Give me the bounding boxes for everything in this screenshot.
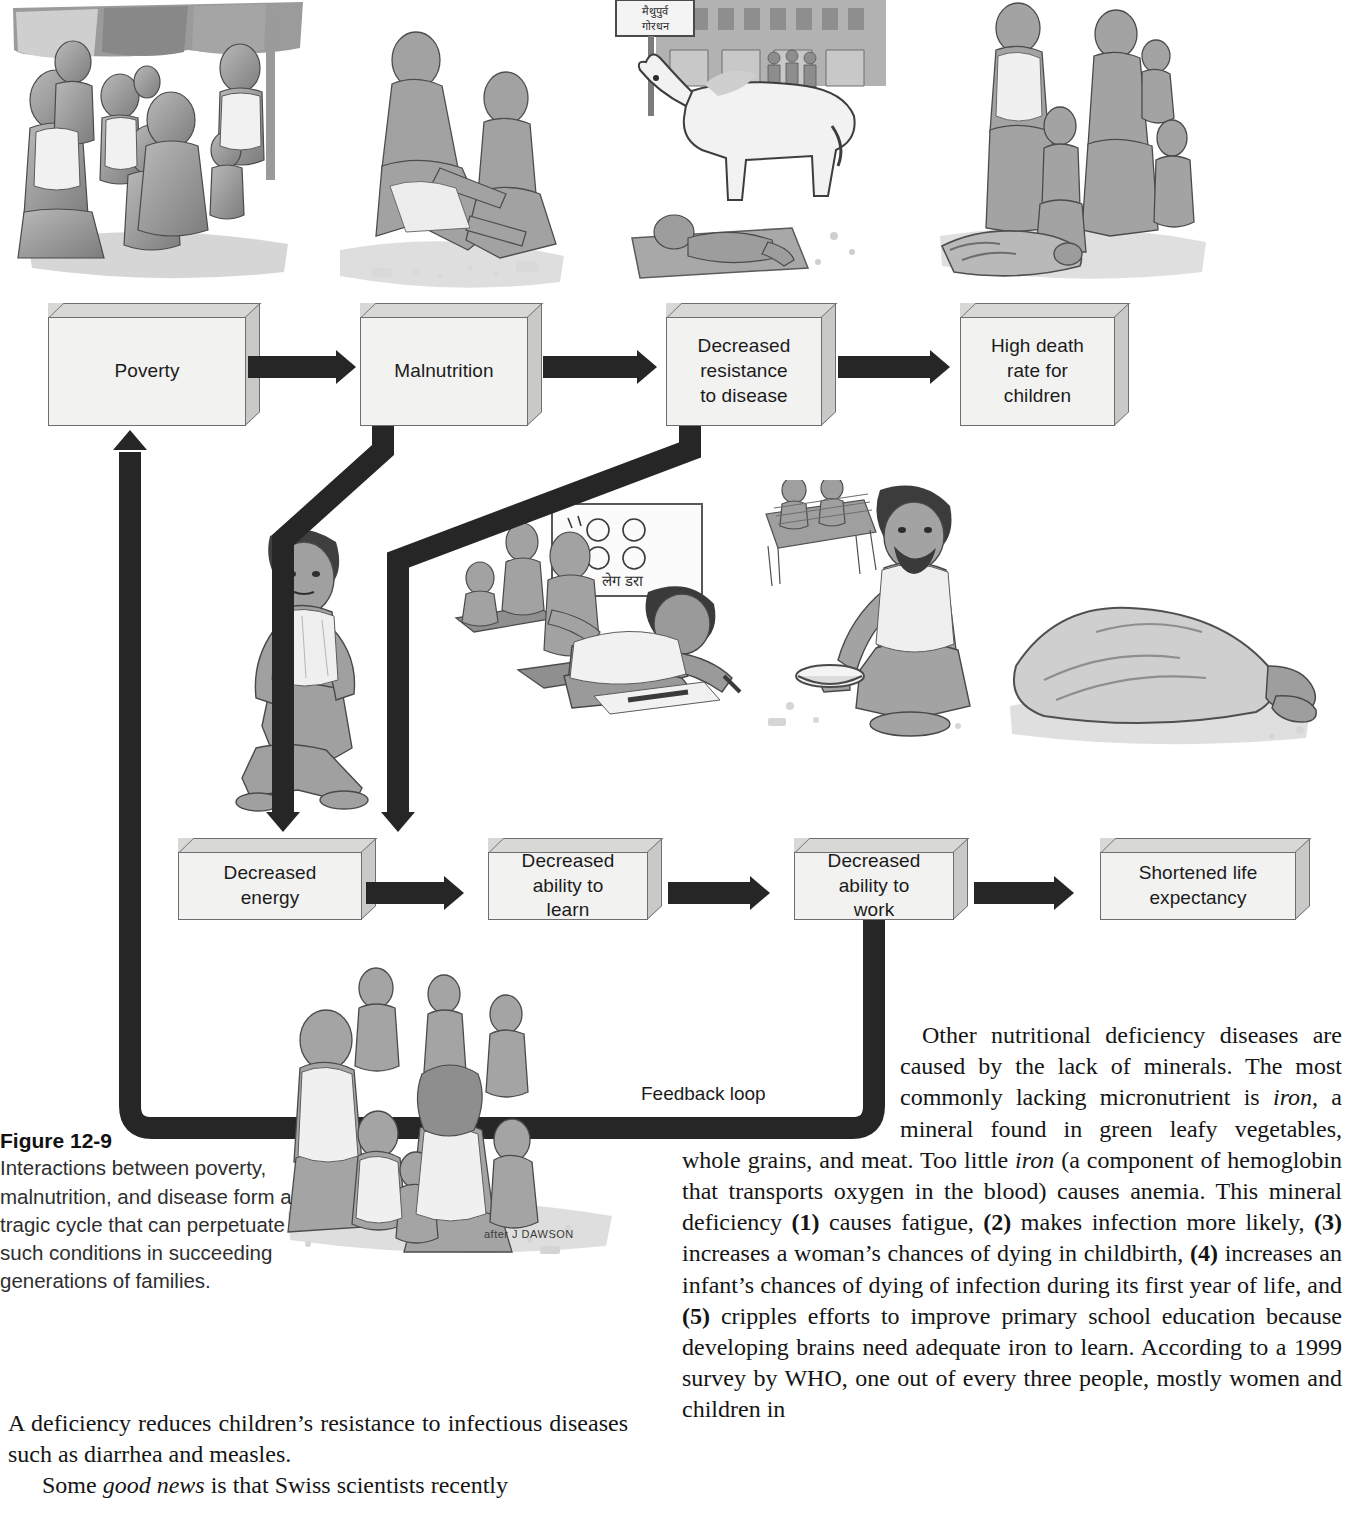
node-side-face [1114,303,1129,426]
arrow-work-to-shortened-life [974,882,1056,904]
node-side-face [821,303,836,426]
figure-caption-text: Interactions between poverty, malnutriti… [0,1156,292,1292]
node-top-face [178,838,362,853]
flow-node-label: Decreasedability tolearn [516,849,621,923]
node-front-face: Malnutrition [360,317,528,426]
node-side-face [1295,838,1310,920]
node-front-face: Poverty [48,317,246,426]
figure-number: Figure 12-9 [0,1129,112,1152]
figure-caption: Figure 12-9 Interactions between poverty… [0,1128,330,1296]
illustration-sitting-boy [212,512,402,822]
arrow-energy-to-learn [366,882,446,904]
arrowhead-right [336,350,356,384]
arrowhead-right [930,350,950,384]
node-top-face [666,303,822,318]
body-text-right-column: Other nutritional deficiency diseases ar… [682,1020,1342,1425]
textbook-page: मैथुपुर्व गोरधन [0,0,1345,1522]
arrowhead-right [637,350,657,384]
flow-node-decreased-ability-work[interactable]: Decreasedability towork [794,838,954,920]
flow-node-label: Poverty [108,359,185,384]
illustration-classroom: लेग डरा [452,500,752,730]
list-marker-2: (2) [983,1209,1011,1235]
illustration-poverty-family [8,0,308,285]
node-top-face [1100,838,1296,853]
left-para2-pre: Some [42,1472,103,1498]
flow-node-label: Malnutrition [388,359,499,384]
flow-node-label: Decreasedability towork [822,849,927,923]
flow-node-label: Decreasedenergy [218,861,323,910]
list-marker-4: (4) [1190,1240,1218,1266]
node-front-face: Decreasedresistanceto disease [666,317,822,426]
svg-text:मैथुपुर्व: मैथुपुर्व [642,5,669,18]
arrow-poverty-to-malnutrition [248,356,338,378]
illustration-cow-street: मैथुपुर्व गोरधन [596,0,896,288]
body-text-left-column: A deficiency reduces children’s resistan… [8,1408,628,1502]
list-marker-3: (3) [1314,1209,1342,1235]
artist-signature: after J DAWSON [484,1228,574,1240]
iron-emphasis-1: iron [1273,1084,1312,1110]
arrowhead-down-energy-right [381,812,415,832]
node-side-face [953,838,968,920]
node-side-face [361,838,376,920]
illustration-family-and-dying-child [920,0,1220,290]
arrowhead-up-to-poverty [113,430,147,450]
flow-node-malnutrition[interactable]: Malnutrition [360,303,528,426]
arrowhead-right [1054,876,1074,910]
flow-node-high-death-rate[interactable]: High deathrate forchildren [960,303,1115,426]
left-para2-post: is that Swiss scientists recently [205,1472,508,1498]
flow-node-decreased-energy[interactable]: Decreasedenergy [178,838,362,920]
illustration-person-lying-blanket [1000,570,1330,750]
node-front-face: Shortened lifeexpectancy [1100,852,1296,920]
list-marker-1: (1) [791,1209,819,1235]
list-text-2: makes infection more likely, [1011,1209,1314,1235]
arrowhead-down-energy-left [266,812,300,832]
arrow-learn-to-work [668,882,752,904]
flow-node-label: Shortened lifeexpectancy [1133,861,1264,910]
left-paragraph-2: Some good news is that Swiss scientists … [8,1470,628,1501]
illustration-man-eating [760,480,990,740]
list-marker-5: (5) [682,1303,710,1329]
node-side-face [527,303,542,426]
node-front-face: High deathrate forchildren [960,317,1115,426]
node-top-face [48,303,246,318]
node-top-face [360,303,528,318]
flow-node-poverty[interactable]: Poverty [48,303,246,426]
arrow-resistance-to-death-rate [838,356,932,378]
list-text-5: cripples efforts to improve primary scho… [682,1303,1342,1423]
node-front-face: Decreasedenergy [178,852,362,920]
arrowhead-right [750,876,770,910]
good-news-emphasis: good news [103,1472,205,1498]
text-runaround-spacer [682,1020,900,1142]
flow-node-decreased-resistance[interactable]: Decreasedresistanceto disease [666,303,822,426]
node-front-face: Decreasedability towork [794,852,954,920]
flow-node-label: High deathrate forchildren [985,334,1090,408]
flow-node-shortened-life[interactable]: Shortened lifeexpectancy [1100,838,1296,920]
arrowhead-right [444,876,464,910]
list-text-3: increases a woman’s chances of dying in … [682,1240,1190,1266]
node-front-face: Decreasedability tolearn [488,852,648,920]
illustration-malnutrition-men [320,18,580,288]
list-text-1: causes fatigue, [819,1209,983,1235]
iron-emphasis-2: iron [1015,1147,1054,1173]
svg-text:लेग डरा: लेग डरा [602,572,644,590]
node-top-face [960,303,1115,318]
flow-node-decreased-ability-learn[interactable]: Decreasedability tolearn [488,838,648,920]
svg-text:गोरधन: गोरधन [642,20,670,33]
node-side-face [647,838,662,920]
arrow-malnutrition-to-resistance [543,356,639,378]
flow-node-label: Decreasedresistanceto disease [692,334,797,408]
left-paragraph-1: A deficiency reduces children’s resistan… [8,1408,628,1470]
